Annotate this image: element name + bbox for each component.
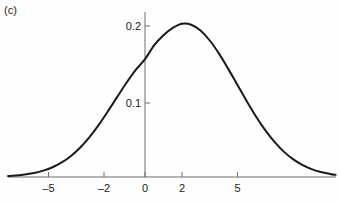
y-tick-label-0-1: 0.1 — [126, 97, 141, 109]
x-tick-label-minus2: –2 — [98, 182, 110, 194]
density-curve-path — [8, 23, 335, 176]
x-tick-label-minus5: –5 — [42, 182, 54, 194]
x-tick-label-2: 2 — [179, 182, 185, 194]
y-tick-label-0-2: 0.2 — [126, 20, 141, 32]
figure-panel: (c) –5 –2 0 2 5 0.1 0.2 — [0, 0, 340, 204]
x-tick-label-5: 5 — [234, 182, 240, 194]
x-tick-marks — [49, 172, 238, 177]
density-plot: –5 –2 0 2 5 0.1 0.2 — [0, 0, 340, 204]
y-tick-marks — [145, 26, 150, 103]
x-tick-label-zero: 0 — [142, 182, 148, 194]
